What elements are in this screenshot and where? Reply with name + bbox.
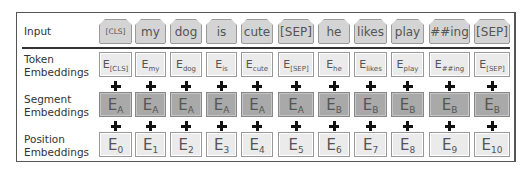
embedding-symbol: E (178, 96, 187, 114)
segment-embeddings-label: Segment Embeddings (24, 93, 89, 119)
position-embedding: E7 (354, 132, 387, 157)
embedding-symbol: E (143, 96, 152, 114)
input-token: play (391, 19, 424, 44)
token-embedding-subscript: play (404, 65, 419, 73)
position-embedding: E1 (135, 132, 166, 157)
segment-embedding-subscript: A (259, 105, 265, 115)
segment-embedding-subscript: B (372, 105, 378, 115)
embedding-symbol: E (283, 58, 290, 71)
token-embedding: E##ing (429, 52, 470, 77)
input-token-text: is (217, 25, 227, 39)
input-token: ##ing (429, 19, 470, 44)
embedding-symbol: E (326, 136, 335, 154)
token-embedding: Elikes (354, 52, 387, 77)
segment-embedding-subscript: B (409, 105, 415, 115)
position-embedding: E5 (278, 132, 314, 157)
plus-icon (291, 121, 301, 131)
position-embedding-subscript: 0 (117, 145, 123, 155)
plus-icon (366, 121, 376, 131)
segment-embedding-subscript: A (188, 105, 194, 115)
position-embedding-subscript: 5 (298, 145, 304, 155)
plus-icon (487, 81, 497, 91)
embedding-symbol: E (108, 96, 117, 114)
embedding-symbol: E (143, 136, 152, 154)
position-embedding-subscript: 2 (188, 145, 194, 155)
plus-icon (217, 81, 227, 91)
position-embeddings-label: Position Embeddings (24, 133, 89, 159)
token-embeddings-label: Token Embeddings (24, 53, 89, 79)
plus-icon (329, 121, 339, 131)
segment-embedding-subscript: B (451, 105, 457, 115)
token-embedding: E[SEP] (474, 52, 510, 77)
input-token: dog (170, 19, 202, 44)
token-embedding-subscript: cute (253, 65, 268, 73)
input-token: [SEP] (278, 19, 314, 44)
embedding-symbol: E (363, 96, 372, 114)
input-token-text: [SEP] (476, 25, 508, 39)
token-embedding-subscript: is (222, 65, 228, 73)
position-label-line1: Position (24, 133, 89, 146)
segment-embedding: EB (429, 92, 470, 117)
embedding-symbol: E (215, 58, 222, 71)
position-embedding-subscript: 3 (223, 145, 229, 155)
segment-embedding-subscript: A (117, 105, 123, 115)
token-embedding: Eis (206, 52, 237, 77)
token-embedding: Eplay (391, 52, 424, 77)
plus-icon (445, 81, 455, 91)
position-embedding: E2 (170, 132, 202, 157)
segment-embedding-subscript: A (298, 105, 304, 115)
embedding-symbol: E (363, 136, 372, 154)
segment-embedding-subscript: A (152, 105, 158, 115)
position-embedding-subscript: 1 (152, 145, 158, 155)
segment-label-line2: Embeddings (24, 106, 89, 119)
position-embedding-subscript: 4 (259, 145, 265, 155)
embedding-symbol: E (249, 136, 258, 154)
embedding-symbol: E (482, 136, 491, 154)
plus-icon (181, 81, 191, 91)
token-embedding-subscript: likes (366, 65, 382, 73)
token-embedding: E[SEP] (278, 52, 314, 77)
embedding-symbol: E (479, 58, 486, 71)
embedding-symbol: E (397, 58, 404, 71)
token-label-line2: Embeddings (24, 66, 89, 79)
embedding-symbol: E (108, 136, 117, 154)
plus-icon (111, 81, 121, 91)
input-token-text: dog (175, 25, 198, 39)
input-token: is (206, 19, 237, 44)
plus-icon (291, 81, 301, 91)
position-label-line2: Embeddings (24, 146, 89, 159)
input-token: [SEP] (474, 19, 510, 44)
plus-icon (181, 121, 191, 131)
embedding-symbol: E (246, 58, 253, 71)
divider (22, 47, 510, 49)
position-embedding: E9 (429, 132, 470, 157)
embedding-symbol: E (435, 58, 442, 71)
token-embedding-subscript: [CLS] (110, 65, 129, 73)
embedding-symbol: E (214, 96, 223, 114)
token-embedding: Ecute (241, 52, 273, 77)
token-embedding-subscript: my (148, 65, 159, 73)
input-token: likes (354, 19, 387, 44)
position-embedding: E8 (391, 132, 424, 157)
input-token: he (318, 19, 350, 44)
input-token-text: ##ing (430, 25, 469, 39)
position-embedding: E4 (241, 132, 273, 157)
input-token: [CLS] (99, 19, 132, 44)
segment-embedding: EB (474, 92, 510, 117)
input-token-text: cute (244, 25, 270, 39)
position-embedding: E6 (318, 132, 350, 157)
segment-embedding: EA (278, 92, 314, 117)
embedding-symbol: E (103, 58, 110, 71)
input-token-text: [SEP] (280, 25, 312, 39)
segment-embedding: EB (354, 92, 387, 117)
plus-icon (366, 81, 376, 91)
token-embedding: E[CLS] (99, 52, 132, 77)
segment-embedding: EA (206, 92, 237, 117)
embedding-symbol: E (326, 58, 333, 71)
plus-icon (111, 121, 121, 131)
embedding-symbol: E (359, 58, 366, 71)
token-embedding-subscript: ##ing (442, 65, 465, 73)
input-token: cute (241, 19, 273, 44)
embedding-symbol: E (249, 96, 258, 114)
plus-icon (403, 81, 413, 91)
